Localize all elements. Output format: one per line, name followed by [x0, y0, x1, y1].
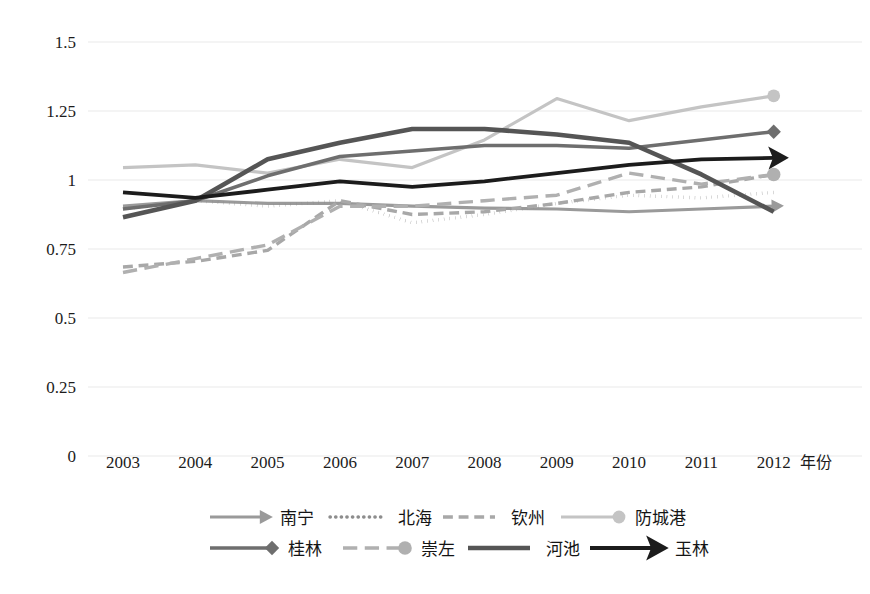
- legend-item-钦州[interactable]: 钦州: [443, 509, 545, 528]
- legend-item-河池[interactable]: 河池: [468, 540, 580, 559]
- y-axis-tick-label: 0.25: [46, 378, 76, 397]
- legend-arrow-marker-icon: [260, 510, 273, 524]
- y-axis-tick-label: 0: [68, 447, 77, 466]
- legend-diamond-marker-icon: [265, 541, 279, 555]
- x-axis-tick-label: 2006: [323, 453, 357, 472]
- x-axis-tick-label: 2009: [540, 453, 574, 472]
- y-axis-tick-label: 0.75: [46, 240, 76, 259]
- legend-item-北海[interactable]: 北海: [330, 509, 432, 528]
- legend-label: 钦州: [511, 509, 545, 528]
- legend-item-玉林[interactable]: 玉林: [590, 535, 709, 560]
- series-end-circle-marker: [767, 89, 780, 102]
- x-axis-title: 年份: [800, 454, 832, 471]
- x-axis-tick-label: 2008: [468, 453, 502, 472]
- legend-item-崇左[interactable]: 崇左: [343, 540, 455, 559]
- line-chart: 00.250.50.7511.251.5 2003200420052006200…: [0, 0, 870, 594]
- legend-label: 崇左: [421, 540, 455, 559]
- x-axis-tick-label: 2005: [251, 453, 285, 472]
- x-axis-tick-label: 2010: [612, 453, 646, 472]
- series-layer: [123, 89, 789, 272]
- y-axis-tick-label: 1.25: [46, 102, 76, 121]
- legend-item-防城港[interactable]: 防城港: [561, 509, 686, 528]
- series-end-diamond-marker: [767, 125, 781, 139]
- chart-canvas: 00.250.50.7511.251.5 2003200420052006200…: [0, 0, 870, 594]
- x-axis-tick-label: 2011: [685, 453, 718, 472]
- y-axis-tick-labels: 00.250.50.7511.251.5: [46, 33, 76, 466]
- x-axis-tick-label: 2007: [395, 453, 430, 472]
- x-axis-tick-label: 2012: [757, 453, 791, 472]
- series-line: [123, 132, 774, 209]
- legend-circle-marker-icon: [613, 511, 626, 524]
- legend-item-南宁[interactable]: 南宁: [210, 509, 314, 528]
- legend-label: 桂林: [288, 540, 322, 559]
- y-axis-tick-label: 1: [68, 171, 77, 190]
- legend-label: 南宁: [280, 509, 314, 528]
- legend-circle-marker-icon: [398, 541, 412, 555]
- legend-label: 北海: [398, 509, 432, 528]
- legend-label: 河池: [546, 540, 580, 559]
- y-axis-tick-label: 1.5: [55, 33, 76, 52]
- x-axis-tick-label: 2004: [178, 453, 213, 472]
- legend-item-桂林[interactable]: 桂林: [210, 540, 322, 559]
- legend-label: 玉林: [675, 540, 709, 559]
- y-axis-tick-label: 0.5: [55, 309, 76, 328]
- gridlines: [88, 42, 862, 456]
- x-axis-tick-label: 2003: [106, 453, 140, 472]
- series-0: [123, 199, 784, 213]
- series-end-circle-marker: [767, 168, 781, 182]
- legend-label: 防城港: [635, 509, 686, 528]
- chart-legend: 南宁北海钦州防城港桂林崇左河池玉林: [210, 509, 709, 561]
